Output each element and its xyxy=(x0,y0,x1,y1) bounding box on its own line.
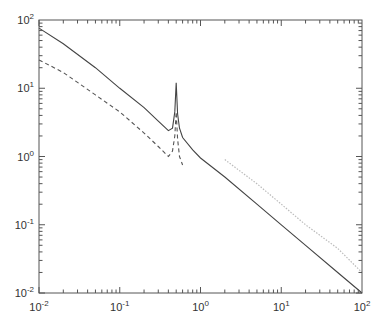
y-tick-label: 10-1 xyxy=(15,217,35,231)
x-tick-label: 10-1 xyxy=(110,299,130,313)
plot-area xyxy=(39,28,362,293)
series-line-dotted xyxy=(225,160,362,273)
x-tick-label: 101 xyxy=(273,299,290,313)
y-tick-label: 102 xyxy=(17,12,34,26)
x-tick-label: 10-2 xyxy=(29,299,49,313)
series-line-solid xyxy=(39,28,362,293)
y-tick-label: 101 xyxy=(17,80,34,94)
log-log-chart: 10-210-1100101102 10-210-1100101102 xyxy=(0,0,380,326)
x-tick-label: 102 xyxy=(354,299,371,313)
x-axis-tick-labels: 10-210-1100101102 xyxy=(29,299,371,313)
y-tick-label: 10-2 xyxy=(15,285,35,299)
x-tick-label: 100 xyxy=(192,299,209,313)
y-tick-label: 100 xyxy=(17,149,34,163)
y-axis-tick-labels: 10-210-1100101102 xyxy=(15,12,35,299)
series-line-dashed xyxy=(39,60,183,165)
